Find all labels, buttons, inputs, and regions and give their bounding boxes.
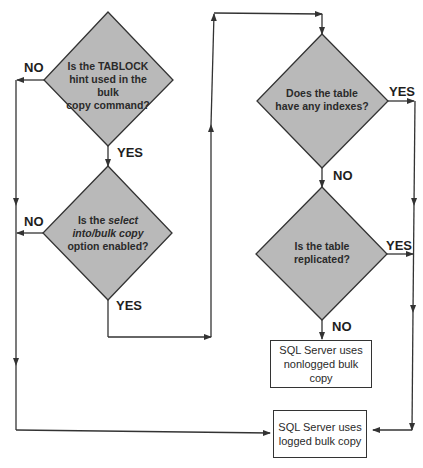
text-line: Is the table xyxy=(272,240,372,253)
text-line: hint used in the bulk xyxy=(58,73,158,99)
text-line: copy command? xyxy=(58,99,158,112)
decision-text-indexes: Does the table have any indexes? xyxy=(272,87,372,113)
d4-yes-label: YES xyxy=(386,238,412,253)
d2-yes-label: YES xyxy=(116,298,142,313)
d2-no-label: NO xyxy=(24,214,44,229)
text-line: replicated? xyxy=(272,253,372,266)
text-line: Is the TABLOCK xyxy=(58,60,158,73)
outcome-logged-bulk-copy: SQL Server uses logged bulk copy xyxy=(273,410,367,458)
text-line: nonlogged bulk copy xyxy=(271,357,371,385)
text-line: into/bulk copy xyxy=(58,227,158,240)
d3-yes-label: YES xyxy=(389,84,415,99)
text-line: logged bulk copy xyxy=(274,434,366,448)
decision-text-tablock: Is the TABLOCK hint used in the bulk cop… xyxy=(58,60,158,112)
d1-yes-label: YES xyxy=(117,145,143,160)
text-italic: into/bulk copy xyxy=(72,227,143,239)
outcome-nonlogged-bulk-copy: SQL Server uses nonlogged bulk copy xyxy=(270,340,372,388)
text-italic: select xyxy=(108,214,138,226)
text-line: option enabled? xyxy=(58,240,158,253)
decision-text-replicated: Is the table replicated? xyxy=(272,240,372,266)
text-line: Does the table xyxy=(272,87,372,100)
text-line: SQL Server uses xyxy=(271,343,371,357)
decision-text-select-into: Is the select into/bulk copy option enab… xyxy=(58,214,158,253)
text-line: Is the select xyxy=(58,214,158,227)
text-prefix: Is the xyxy=(78,214,108,226)
text-line: have any indexes? xyxy=(272,100,372,113)
d4-no-label: NO xyxy=(332,319,352,334)
d3-no-label: NO xyxy=(333,168,353,183)
text-line: SQL Server uses xyxy=(274,420,366,434)
d1-no-label: NO xyxy=(24,60,44,75)
